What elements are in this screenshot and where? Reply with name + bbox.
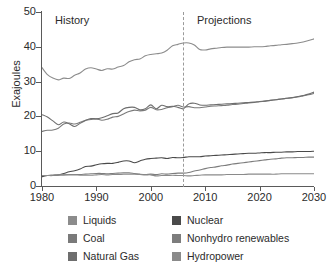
projections-label: Projections bbox=[197, 14, 251, 26]
legend-item-natural-gas[interactable]: Natural Gas bbox=[68, 248, 139, 264]
legend-swatch-icon bbox=[68, 234, 77, 243]
y-tick-label: 0 bbox=[8, 180, 36, 191]
y-tick-label: 50 bbox=[8, 6, 36, 17]
chart-lines-svg bbox=[42, 12, 314, 186]
legend-column-right: NuclearNonhydro renewablesHydropower bbox=[172, 212, 289, 266]
series-line-coal bbox=[42, 93, 314, 131]
y-tick bbox=[36, 151, 41, 152]
legend-item-nuclear[interactable]: Nuclear bbox=[172, 212, 289, 228]
y-tick bbox=[36, 12, 41, 13]
y-tick bbox=[36, 82, 41, 83]
x-tick-label: 1980 bbox=[20, 191, 64, 203]
series-line-natural-gas bbox=[42, 92, 314, 126]
legend-item-liquids[interactable]: Liquids bbox=[68, 212, 139, 228]
legend-label: Coal bbox=[83, 233, 105, 244]
legend-swatch-icon bbox=[172, 216, 181, 225]
y-tick-label: 10 bbox=[8, 145, 36, 156]
legend-swatch-icon bbox=[68, 252, 77, 261]
energy-consumption-chart-figure: 01020304050 198019902000201020202030 Exa… bbox=[0, 0, 332, 266]
x-tick-label: 2010 bbox=[183, 191, 227, 203]
legend-item-coal[interactable]: Coal bbox=[68, 230, 139, 246]
legend-label: Nuclear bbox=[187, 215, 223, 226]
y-axis-title: Exajoules bbox=[10, 44, 22, 124]
chart-legend: LiquidsCoalNatural Gas NuclearNonhydro r… bbox=[0, 212, 332, 264]
legend-swatch-icon bbox=[172, 252, 181, 261]
series-line-nonhydro-renewables bbox=[42, 157, 314, 175]
y-axis-line bbox=[41, 11, 42, 187]
legend-label: Nonhydro renewables bbox=[187, 233, 289, 244]
x-tick-label: 1990 bbox=[74, 191, 118, 203]
history-label: History bbox=[55, 14, 89, 26]
y-tick bbox=[36, 116, 41, 117]
series-line-liquids bbox=[42, 39, 314, 80]
legend-item-nonhydro-renewables[interactable]: Nonhydro renewables bbox=[172, 230, 289, 246]
x-tick-label: 2020 bbox=[238, 191, 282, 203]
y-tick bbox=[36, 186, 41, 187]
x-tick-label: 2030 bbox=[292, 191, 332, 203]
history-projection-divider bbox=[183, 12, 184, 187]
plot-area bbox=[42, 12, 314, 186]
x-tick-label: 2000 bbox=[129, 191, 173, 203]
legend-swatch-icon bbox=[172, 234, 181, 243]
y-tick bbox=[36, 47, 41, 48]
legend-label: Hydropower bbox=[187, 251, 244, 262]
legend-column-left: LiquidsCoalNatural Gas bbox=[68, 212, 139, 266]
legend-label: Liquids bbox=[83, 215, 116, 226]
x-axis-line bbox=[41, 186, 314, 187]
legend-swatch-icon bbox=[68, 216, 77, 225]
legend-item-hydropower[interactable]: Hydropower bbox=[172, 248, 289, 264]
legend-label: Natural Gas bbox=[83, 251, 139, 262]
